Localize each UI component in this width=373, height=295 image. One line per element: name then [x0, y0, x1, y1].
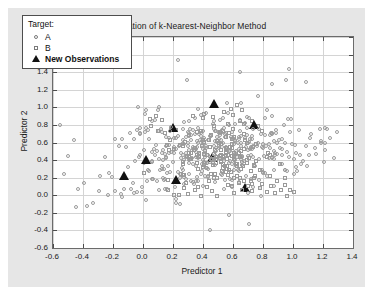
gridline-vertical	[353, 37, 354, 248]
legend-item-b: B	[27, 42, 127, 53]
y-axis-tick	[349, 37, 353, 38]
data-point-b	[279, 188, 283, 192]
data-point-a	[173, 185, 177, 189]
data-point-a	[323, 148, 327, 152]
data-point-a	[307, 153, 311, 157]
data-point-a	[147, 137, 151, 141]
legend-label: B	[45, 43, 51, 53]
data-point-a	[82, 181, 86, 185]
y-axis-tick	[349, 160, 353, 161]
data-point-b	[195, 161, 199, 165]
data-point-a	[275, 141, 279, 145]
x-axis-tick	[173, 244, 174, 248]
data-point-b	[283, 183, 287, 187]
data-point-a	[211, 161, 215, 165]
data-point-a	[158, 168, 162, 172]
legend-item-new-observations: New Observations	[27, 53, 127, 64]
data-point-b	[186, 192, 190, 196]
data-point-a	[195, 139, 199, 143]
data-point-a	[201, 184, 205, 188]
data-point-a	[187, 172, 191, 176]
y-axis-tick	[53, 230, 57, 231]
x-axis-tick	[353, 37, 354, 41]
data-point-b	[265, 190, 269, 194]
data-point-a	[228, 177, 232, 181]
gridline-horizontal	[53, 248, 353, 249]
data-point-a	[263, 133, 267, 137]
data-point-b	[202, 112, 206, 116]
data-point-a	[335, 130, 339, 134]
data-point-a	[182, 142, 186, 146]
data-point-a	[203, 148, 207, 152]
data-point-a	[274, 131, 278, 135]
data-point-b	[252, 163, 256, 167]
legend-label: New Observations	[45, 54, 119, 64]
data-point-b	[207, 179, 211, 183]
data-point-b	[283, 176, 287, 180]
data-point-a	[322, 160, 326, 164]
y-axis-tick	[349, 125, 353, 126]
data-point-a	[166, 164, 170, 168]
data-point-b	[177, 193, 181, 197]
x-tick-label: 0.6	[226, 252, 237, 261]
y-axis-tick	[53, 90, 57, 91]
data-point-b	[232, 191, 236, 195]
data-point-b	[192, 148, 196, 152]
data-point-a	[212, 119, 216, 123]
triangle-filled-icon	[27, 55, 45, 62]
data-point-b	[201, 138, 205, 142]
data-point-a	[309, 132, 313, 136]
data-point-b	[250, 189, 254, 193]
data-point-b	[254, 159, 258, 163]
data-point-a	[247, 222, 251, 226]
data-point-a	[214, 146, 218, 150]
data-point-a	[332, 156, 336, 160]
data-point-a	[213, 180, 217, 184]
gridline-horizontal	[53, 230, 353, 231]
x-tick-label: -0.2	[105, 252, 119, 261]
data-point-a	[221, 116, 225, 120]
data-point-b	[231, 113, 235, 117]
x-tick-label: -0.4	[75, 252, 89, 261]
data-point-b	[182, 186, 186, 190]
data-point-b	[238, 176, 242, 180]
data-point-a	[283, 141, 287, 145]
legend-rows: ABNew Observations	[27, 31, 127, 64]
data-point-a	[246, 191, 250, 195]
data-point-a	[297, 128, 301, 132]
data-point-a	[132, 137, 136, 141]
data-point-a	[258, 186, 262, 190]
y-axis-tick	[349, 195, 353, 196]
data-point-a	[178, 176, 182, 180]
y-axis-tick	[349, 178, 353, 179]
data-point-a	[314, 152, 318, 156]
data-point-a	[150, 177, 154, 181]
y-tick-label: 0.0	[22, 190, 48, 199]
data-point-a	[176, 134, 180, 138]
x-axis-tick	[293, 244, 294, 248]
data-point-a	[229, 135, 233, 139]
data-point-a	[280, 153, 284, 157]
data-point-a	[120, 195, 124, 199]
gridline-horizontal	[53, 195, 353, 196]
data-point-a	[269, 131, 273, 135]
x-axis-tick	[203, 244, 204, 248]
data-point-a	[251, 127, 255, 131]
y-tick-label: -0.6	[22, 243, 48, 252]
data-point-a	[226, 111, 230, 115]
data-point-a	[239, 144, 243, 148]
data-point-a	[265, 174, 269, 178]
data-point-b	[202, 163, 206, 167]
y-axis-tick	[349, 72, 353, 73]
data-point-a	[238, 70, 242, 74]
data-point-a	[153, 153, 157, 157]
data-point-a	[144, 108, 148, 112]
data-point-b	[242, 132, 246, 136]
data-point-a	[174, 201, 178, 205]
y-axis-tick	[349, 107, 353, 108]
data-point-a	[157, 188, 161, 192]
y-axis-tick	[53, 195, 57, 196]
data-point-a	[265, 108, 269, 112]
data-point-a	[318, 127, 322, 131]
x-axis-label: Predictor 1	[52, 266, 352, 276]
